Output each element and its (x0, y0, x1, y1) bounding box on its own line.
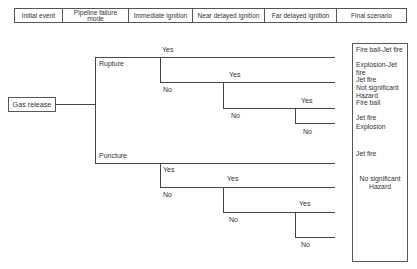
branch-line (223, 212, 335, 213)
connector-line (295, 212, 296, 238)
scenario-rupture-6: Jet fire (356, 114, 376, 122)
header-final-scenario: Final scenario (337, 9, 406, 22)
branch-line (295, 237, 335, 238)
label-yes: Yes (299, 200, 310, 207)
label-no: No (163, 191, 172, 198)
connector-line (56, 104, 96, 105)
label-yes: Yes (163, 166, 174, 173)
scenario-rupture-7: Explosion (356, 123, 385, 131)
label-rupture: Rupture (99, 60, 124, 67)
connector-line (223, 187, 224, 213)
scenario-rupture-2: Explosion-Jet fire (356, 61, 408, 76)
scenario-rupture-1: Fire ball-Jet fire (356, 46, 408, 54)
header-near-delayed-ignition: Near delayed ignition (193, 9, 265, 22)
scenario-puncture-1: Jet fire (356, 150, 376, 158)
header-immediate-ignition: Immediate ignition (129, 9, 193, 22)
header-initial-event: Initial event (15, 9, 63, 22)
connector-line (160, 163, 161, 188)
label-yes: Yes (301, 97, 312, 104)
connector-line (223, 82, 224, 109)
branch-line-puncture (95, 163, 335, 164)
scenario-rupture-3: Jet fire (356, 76, 376, 84)
branch-line (160, 187, 335, 188)
label-no: No (303, 128, 312, 135)
branch-line (295, 123, 335, 124)
scenario-rupture-4: Not significant Hazard (356, 84, 410, 99)
label-no: No (301, 241, 310, 248)
header-far-delayed-ignition: Far delayed ignition (265, 9, 337, 22)
connector-line (95, 57, 96, 164)
branch-line (160, 82, 335, 83)
label-puncture: Puncture (99, 152, 127, 159)
header-pipeline-failure-mode: Pipeline failure mode (63, 9, 129, 22)
label-yes: Yes (229, 71, 240, 78)
label-no: No (229, 216, 238, 223)
label-no: No (231, 112, 240, 119)
connector-line (295, 108, 296, 124)
connector-line (160, 57, 161, 83)
branch-line (223, 108, 335, 109)
column-header-row: Initial event Pipeline failure mode Imme… (14, 8, 407, 23)
root-node-gas-release: Gas release (8, 97, 56, 112)
label-yes: Yes (227, 175, 238, 182)
final-scenario-box: Fire ball-Jet fire Explosion-Jet fire Je… (352, 43, 408, 262)
label-yes: Yes (162, 46, 173, 53)
scenario-rupture-5: Fire ball (356, 99, 380, 107)
scenario-puncture-2: No significant Hazard (353, 175, 407, 190)
branch-line-rupture (95, 57, 335, 58)
label-no: No (163, 86, 172, 93)
